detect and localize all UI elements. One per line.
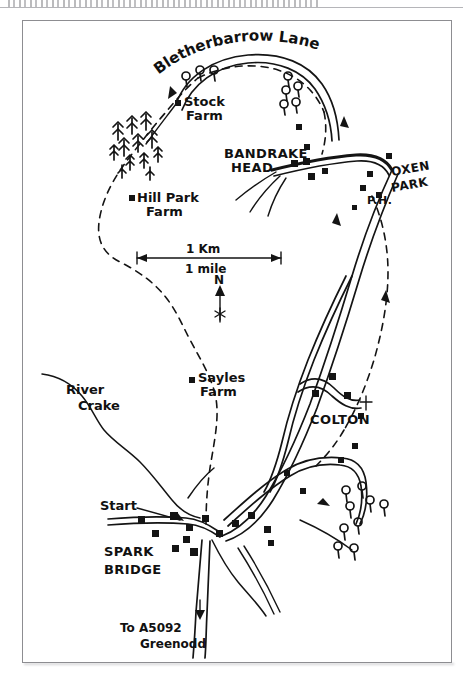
hand-drawn-map: 1 Km 1 mile N Bletherbarrow Lane Stock F… bbox=[0, 0, 476, 684]
road-main-north-south-east bbox=[226, 174, 398, 541]
label-river-crake-line1: River bbox=[66, 382, 105, 397]
conifer-tree bbox=[140, 153, 148, 168]
label-colton: COLTON bbox=[310, 412, 370, 427]
building-stock-farm bbox=[175, 100, 181, 106]
building-spark-13 bbox=[268, 540, 274, 546]
conifer-tree bbox=[154, 147, 162, 162]
label-sayles-farm-line1: Sayles bbox=[198, 370, 245, 385]
label-stock-farm: Stock Farm bbox=[184, 94, 225, 123]
deciduous-tree bbox=[380, 500, 388, 516]
conifer-tree bbox=[133, 134, 143, 152]
deciduous-tree bbox=[210, 66, 218, 81]
road-bandrake-fan-c bbox=[268, 178, 286, 216]
deciduous-tree bbox=[282, 86, 290, 101]
label-sayles-farm-line2: Farm bbox=[200, 384, 237, 399]
route-arrow-stock-farm-up bbox=[168, 86, 177, 99]
conifer-tree bbox=[110, 145, 118, 160]
label-stock-farm-line2: Farm bbox=[186, 108, 223, 123]
conifer-tree bbox=[119, 138, 129, 156]
building-sayles-farm bbox=[189, 377, 195, 383]
building-oxen-park-3 bbox=[360, 185, 366, 191]
label-hill-park-farm-line2: Farm bbox=[146, 204, 183, 219]
label-bandrake-head-line2: HEAD bbox=[231, 160, 273, 175]
building-oxen-park-2 bbox=[367, 171, 373, 177]
deciduous-tree bbox=[292, 98, 300, 113]
compass-north-label: N bbox=[214, 273, 224, 287]
building-spark-12 bbox=[264, 526, 271, 533]
building-spark-2 bbox=[152, 530, 159, 537]
deciduous-tree bbox=[334, 542, 342, 558]
building-colton-5 bbox=[352, 443, 358, 449]
conifer-tree bbox=[126, 155, 134, 170]
route-arrow-north-east bbox=[340, 116, 349, 128]
label-spark-bridge-line2: BRIDGE bbox=[104, 562, 162, 577]
building-spark-10 bbox=[232, 520, 239, 527]
label-spark-bridge: SPARK BRIDGE bbox=[104, 544, 162, 577]
road-bandrake-fan-b bbox=[250, 176, 280, 212]
scale-bar-arrow-right bbox=[271, 254, 281, 262]
building-spark-14 bbox=[284, 470, 290, 476]
label-stock-farm-line1: Stock bbox=[184, 94, 225, 109]
road-colton-street-lower bbox=[298, 387, 361, 408]
conifer-tree bbox=[147, 130, 157, 148]
building-spark-11 bbox=[248, 512, 255, 519]
conifer-tree bbox=[118, 165, 126, 178]
deciduous-tree bbox=[340, 524, 348, 540]
building-hill-park-farm bbox=[129, 195, 135, 201]
deciduous-tree bbox=[342, 486, 350, 502]
deciduous-tree bbox=[366, 496, 374, 512]
building-spark-6 bbox=[190, 548, 198, 556]
label-bandrake-head-line1: BANDRAKE bbox=[224, 146, 308, 161]
building-oxen-park-4 bbox=[352, 205, 357, 210]
conifer-tree bbox=[146, 167, 154, 180]
building-spark-8 bbox=[202, 515, 209, 522]
building-bandrake-6 bbox=[322, 168, 328, 174]
route-arrow-lower-link-west bbox=[317, 498, 330, 506]
label-spark-bridge-line1: SPARK bbox=[104, 544, 154, 559]
road-lower-link-upper bbox=[224, 457, 367, 524]
building-bandrake-3 bbox=[291, 160, 298, 167]
label-hill-park-farm-line1: Hill Park bbox=[137, 190, 199, 205]
conifer-tree bbox=[113, 122, 123, 140]
building-spark-9 bbox=[216, 530, 223, 537]
label-river-crake: River Crake bbox=[66, 382, 120, 413]
building-colton-6 bbox=[338, 457, 344, 463]
label-oxen-park: OXEN PARK P.H. bbox=[367, 158, 431, 207]
label-destination-line2: Greenodd bbox=[140, 637, 206, 651]
conifer-woodland-northwest bbox=[110, 112, 162, 180]
label-hill-park-farm: Hill Park Farm bbox=[137, 190, 199, 219]
deciduous-tree bbox=[358, 482, 366, 498]
deciduous-tree bbox=[294, 82, 302, 97]
label-bletherbarrow-lane: Bletherbarrow Lane bbox=[150, 26, 322, 77]
scale-bar-arrow-left bbox=[137, 254, 147, 262]
river-crake-south-reach bbox=[212, 540, 266, 616]
label-river-crake-line2: Crake bbox=[78, 398, 120, 413]
compass-north-arrow: N bbox=[214, 273, 225, 322]
route-arrow-east-loop-down bbox=[381, 290, 390, 303]
label-destination-line1: To A5092 bbox=[120, 621, 182, 635]
building-colton-2 bbox=[312, 390, 319, 397]
river-crake bbox=[42, 374, 266, 616]
label-start: Start bbox=[100, 498, 137, 513]
building-bandrake-1 bbox=[296, 124, 302, 130]
scale-metric-label: 1 Km bbox=[186, 242, 220, 256]
label-public-house: P.H. bbox=[367, 194, 392, 207]
building-spark-4 bbox=[183, 536, 190, 543]
road-bridge-spur-a bbox=[238, 548, 274, 614]
road-spark-bridge-street-lower bbox=[108, 523, 220, 537]
road-bridge-spur-b bbox=[244, 546, 280, 612]
route-arrow-bandrake-down bbox=[332, 213, 341, 226]
route-west-loop bbox=[99, 78, 217, 524]
deciduous-tree bbox=[182, 72, 190, 87]
building-colton-1 bbox=[329, 373, 336, 380]
building-spark-15 bbox=[300, 488, 306, 494]
building-spark-1 bbox=[138, 516, 145, 523]
deciduous-tree bbox=[346, 502, 354, 518]
deciduous-tree bbox=[280, 100, 288, 115]
route-to-bandrake bbox=[322, 112, 326, 154]
building-spark-7 bbox=[186, 524, 193, 531]
conifer-tree bbox=[141, 112, 151, 130]
building-bandrake-5 bbox=[308, 173, 315, 180]
building-colton-3 bbox=[344, 392, 351, 399]
label-sayles-farm: Sayles Farm bbox=[198, 370, 245, 399]
